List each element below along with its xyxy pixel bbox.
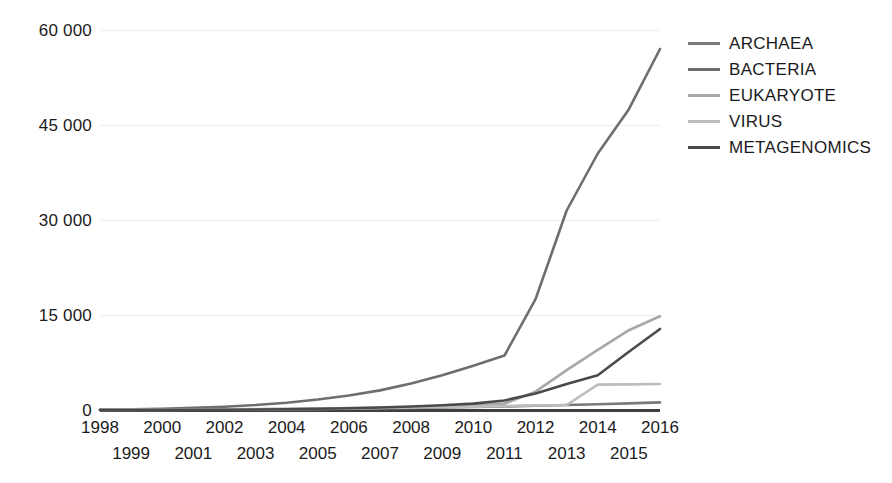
- x-tick-label-odd: 2007: [361, 445, 399, 462]
- x-tick-label-even: 2000: [143, 419, 181, 436]
- y-tick-label: 60 000: [39, 22, 92, 39]
- legend-item-bacteria[interactable]: BACTERIA: [688, 56, 888, 82]
- x-tick-label-odd: 1999: [112, 445, 150, 462]
- chart-legend: ARCHAEABACTERIAEUKARYOTEVIRUSMETAGENOMIC…: [688, 30, 888, 160]
- x-tick-label-even: 2008: [392, 419, 430, 436]
- x-tick-label-even: 1998: [81, 419, 119, 436]
- y-tick-label: 45 000: [39, 117, 92, 134]
- line-chart: 015 00030 00045 00060 000 19982000200220…: [0, 0, 892, 483]
- y-tick-label: 30 000: [39, 212, 92, 229]
- x-tick-label-even: 2012: [517, 419, 555, 436]
- x-axis: 1998200020022004200620082010201220142016…: [0, 415, 700, 475]
- x-tick-label-even: 2004: [268, 419, 306, 436]
- y-axis: 015 00030 00045 00060 000: [0, 0, 92, 483]
- x-tick-label-odd: 2001: [174, 445, 212, 462]
- series-lines: [100, 30, 660, 410]
- legend-item-archaea[interactable]: ARCHAEA: [688, 30, 888, 56]
- legend-label: ARCHAEA: [729, 35, 813, 52]
- series-line: [100, 49, 660, 410]
- legend-swatch-icon: [688, 120, 720, 123]
- legend-label: EUKARYOTE: [729, 87, 836, 104]
- legend-swatch-icon: [688, 94, 720, 97]
- x-tick-label-odd: 2011: [486, 445, 523, 462]
- x-tick-label-odd: 2009: [423, 445, 461, 462]
- x-tick-label-even: 2016: [641, 419, 679, 436]
- plot-area: [100, 30, 660, 410]
- legend-label: METAGENOMICS: [729, 139, 871, 156]
- legend-swatch-icon: [688, 42, 720, 45]
- y-tick-label: 15 000: [39, 307, 92, 324]
- x-tick-label-odd: 2005: [299, 445, 337, 462]
- x-tick-label-odd: 2013: [548, 445, 586, 462]
- x-tick-label-even: 2002: [206, 419, 244, 436]
- series-line: [100, 316, 660, 410]
- x-tick-label-odd: 2015: [610, 445, 648, 462]
- legend-swatch-icon: [688, 146, 720, 149]
- x-tick-label-even: 2006: [330, 419, 368, 436]
- x-tick-label-even: 2014: [579, 419, 617, 436]
- legend-label: VIRUS: [729, 113, 782, 130]
- legend-label: BACTERIA: [729, 61, 816, 78]
- x-tick-label-odd: 2003: [237, 445, 275, 462]
- legend-item-virus[interactable]: VIRUS: [688, 108, 888, 134]
- legend-item-metagenomics[interactable]: METAGENOMICS: [688, 134, 888, 160]
- legend-item-eukaryote[interactable]: EUKARYOTE: [688, 82, 888, 108]
- legend-swatch-icon: [688, 68, 720, 71]
- x-tick-label-even: 2010: [454, 419, 492, 436]
